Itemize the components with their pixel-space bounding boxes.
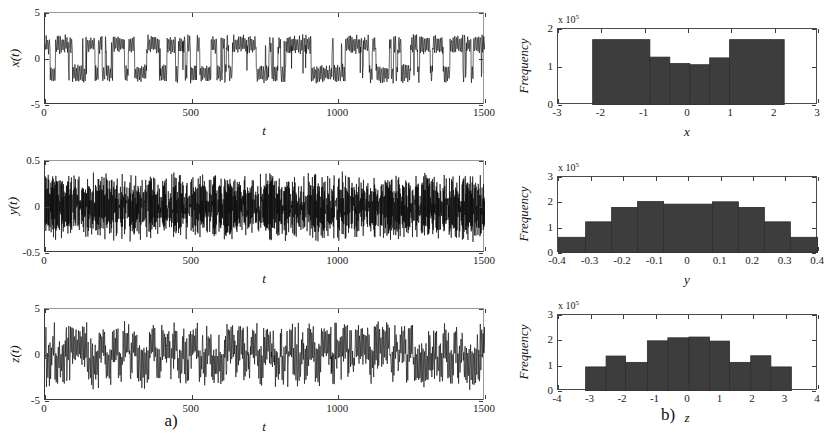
histogram-bar: [586, 222, 612, 253]
y-tick-mark: [558, 366, 562, 367]
x-tick-mark: [338, 13, 339, 17]
x-tick-mark: [818, 29, 819, 33]
x-tick-mark: [688, 99, 689, 103]
y-tick-mark: [558, 67, 562, 68]
plot-area-z-timeseries: [44, 308, 484, 400]
x-axis-title-y-histogram: y: [684, 273, 690, 286]
x-tick-mark: [731, 29, 732, 33]
y-tick-label: 0: [0, 53, 40, 64]
x-tick-mark: [338, 247, 339, 251]
y-tick-label: 3: [500, 171, 553, 182]
x-tick-mark: [688, 247, 689, 251]
x-tick-label: -3: [552, 107, 561, 118]
x-tick-mark: [753, 177, 754, 181]
x-tick-mark: [601, 99, 602, 103]
histogram-bar: [690, 65, 710, 105]
plot-area-z-histogram: [557, 314, 817, 390]
y-tick-mark: [812, 202, 816, 203]
histogram-bar: [626, 362, 648, 391]
x-tick-mark: [818, 177, 819, 181]
x-tick-mark: [192, 13, 193, 17]
x-tick-label: 1000: [326, 403, 348, 414]
y-tick-label: 3: [500, 309, 553, 320]
histogram-bar: [730, 362, 751, 391]
histogram-bar: [650, 57, 670, 105]
y-tick-mark: [812, 177, 816, 178]
y-tick-mark: [479, 207, 483, 208]
y-tick-mark: [45, 355, 49, 356]
exponent-mantissa: x 10: [558, 162, 576, 173]
x-tick-mark: [591, 315, 592, 319]
x-tick-mark: [818, 315, 819, 319]
x-tick-mark: [558, 99, 559, 103]
x-tick-label: 0.4: [810, 255, 824, 266]
x-tick-mark: [485, 161, 486, 165]
x-tick-mark: [645, 29, 646, 33]
x-tick-label: 1000: [326, 107, 348, 118]
x-tick-mark: [192, 395, 193, 399]
x-tick-label: -0.2: [613, 255, 630, 266]
y-tick-mark: [558, 202, 562, 203]
histogram-bar: [647, 341, 667, 391]
x-tick-mark: [721, 247, 722, 251]
y-tick-mark: [812, 228, 816, 229]
x-tick-label: 2: [771, 107, 777, 118]
histogram-bar: [790, 237, 818, 253]
y-tick-label: 5: [0, 7, 40, 18]
y-tick-mark: [812, 29, 816, 30]
x-tick-mark: [485, 247, 486, 251]
x-tick-mark: [591, 177, 592, 181]
x-tick-label: 1500: [473, 403, 495, 414]
histogram-bar: [664, 204, 713, 253]
histogram-bar: [710, 58, 730, 105]
x-tick-mark: [601, 29, 602, 33]
y-tick-mark: [558, 29, 562, 30]
x-tick-mark: [485, 99, 486, 103]
histogram-bar: [668, 338, 689, 391]
y-tick-label: 0: [500, 99, 553, 110]
y-tick-mark: [479, 355, 483, 356]
histogram-bar: [712, 202, 738, 253]
y-tick-label: 0: [0, 201, 40, 212]
x-axis-title-z-timeseries: t: [262, 420, 266, 433]
x-tick-mark: [818, 385, 819, 389]
plot-area-x-histogram: [557, 28, 817, 104]
x-tick-mark: [485, 309, 486, 313]
x-tick-mark: [656, 247, 657, 251]
x-tick-mark: [775, 29, 776, 33]
series-line: [45, 321, 485, 390]
y-tick-mark: [558, 177, 562, 178]
x-tick-label: 0: [684, 255, 690, 266]
x-tick-label: 0: [41, 403, 47, 414]
x-tick-mark: [818, 99, 819, 103]
x-tick-mark: [623, 247, 624, 251]
x-tick-mark: [591, 247, 592, 251]
y-tick-mark: [479, 59, 483, 60]
x-tick-label: 0: [684, 393, 690, 404]
y-tick-mark: [812, 366, 816, 367]
x-tick-mark: [656, 315, 657, 319]
x-tick-mark: [753, 315, 754, 319]
y-axis-title-z-histogram: Frequency: [517, 324, 530, 379]
x-tick-label: 0: [41, 107, 47, 118]
y-tick-mark: [479, 161, 483, 162]
plot-area-x-timeseries: [44, 12, 484, 104]
x-tick-mark: [786, 315, 787, 319]
exponent-mantissa: x 10: [558, 300, 576, 311]
x-tick-label: 1500: [473, 107, 495, 118]
series-line: [45, 172, 485, 242]
x-tick-label: -1: [650, 393, 659, 404]
x-tick-label: -1: [639, 107, 648, 118]
x-tick-label: 0: [41, 255, 47, 266]
histogram-bar: [771, 367, 791, 391]
panel-x-histogram: x 105 Frequency x -3-2-10123012: [500, 0, 833, 148]
y-tick-mark: [812, 67, 816, 68]
x-tick-label: 4: [814, 393, 820, 404]
x-tick-mark: [558, 247, 559, 251]
histogram-bar: [738, 207, 764, 253]
x-tick-label: 0: [684, 107, 690, 118]
x-tick-mark: [656, 385, 657, 389]
x-tick-mark: [192, 99, 193, 103]
figure-root: x(t) t 050010001500-505 y(t) t 050010001…: [0, 0, 833, 444]
y-tick-mark: [479, 309, 483, 310]
